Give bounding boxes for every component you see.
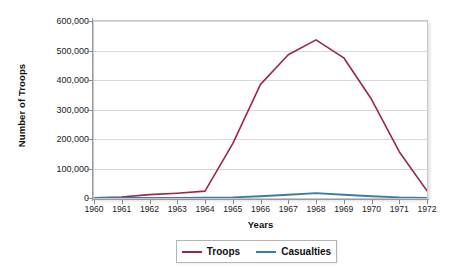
legend-swatch-icon: [182, 251, 202, 253]
y-axis-tick-label: 100,000: [37, 164, 89, 173]
x-axis-tick-label: 1972: [407, 204, 447, 214]
y-axis-title-text: Number of Troops: [17, 63, 28, 146]
legend-item-label: Casualties: [281, 246, 331, 257]
line-chart: Number of Troops 0100,000200,000300,0004…: [0, 0, 456, 273]
y-axis-tick-label: 500,000: [37, 46, 89, 55]
legend-item-label: Troops: [207, 246, 240, 257]
series-lines: [94, 21, 427, 198]
x-axis-title: Years: [93, 219, 428, 230]
y-axis-tick-label: 0: [37, 194, 89, 203]
series-line-troops: [94, 40, 427, 198]
y-axis-tick-labels: 0100,000200,000300,000400,000500,000600,…: [36, 0, 89, 273]
y-axis-title: Number of Troops: [12, 0, 32, 210]
chart-legend: TroopsCasualties: [176, 240, 337, 263]
y-axis-tick-label: 400,000: [37, 76, 89, 85]
y-axis-tick-label: 300,000: [37, 105, 89, 114]
legend-swatch-icon: [256, 251, 276, 253]
plot-area: [93, 20, 428, 199]
plot-inner: [94, 21, 427, 198]
legend-item-casualties[interactable]: Casualties: [256, 246, 331, 257]
y-axis-tick-label: 600,000: [37, 17, 89, 26]
y-axis-tick-label: 200,000: [37, 135, 89, 144]
legend-item-troops[interactable]: Troops: [182, 246, 240, 257]
